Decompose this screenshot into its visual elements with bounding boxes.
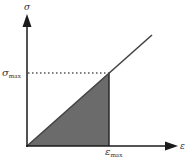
x-axis-arrow-icon	[165, 142, 178, 151]
y-axis-arrow-icon	[23, 14, 32, 27]
x-axis-label: ε	[180, 141, 185, 151]
sigma-max-label: σmax	[2, 67, 21, 80]
y-axis-label: σ	[24, 2, 31, 12]
stress-strain-diagram: σ ε σmax εmax	[0, 0, 191, 161]
epsilon-max-label: εmax	[105, 146, 123, 159]
